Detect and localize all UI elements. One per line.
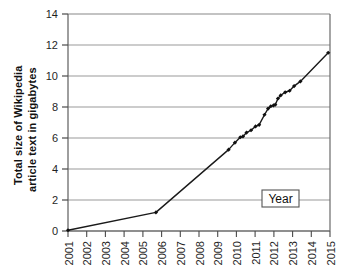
xtick-label-2011: 2011 bbox=[250, 241, 262, 265]
x-axis-ticks bbox=[68, 231, 330, 237]
xtick-label-2012: 2012 bbox=[268, 241, 280, 265]
y-axis-ticks bbox=[62, 14, 68, 231]
xtick-label-2001: 2001 bbox=[63, 241, 75, 265]
line-chart: 14 12 10 8 6 4 2 0 bbox=[0, 0, 341, 278]
xtick-label-2003: 2003 bbox=[100, 241, 112, 265]
ytick-label-8: 8 bbox=[52, 101, 58, 113]
xtick-label-2010: 2010 bbox=[231, 241, 243, 265]
ytick-label-4: 4 bbox=[52, 163, 58, 175]
xtick-label-2009: 2009 bbox=[212, 241, 224, 265]
x-axis-tick-labels: 2001 2002 2003 2004 2005 2006 2007 2008 … bbox=[63, 241, 337, 265]
y-axis-title-line1: Total size of Wikipedia bbox=[12, 65, 24, 185]
xtick-label-2005: 2005 bbox=[137, 241, 149, 265]
y-axis-title: Total size of Wikipedia article text in … bbox=[12, 65, 38, 192]
xtick-label-2006: 2006 bbox=[156, 241, 168, 265]
y-axis-tick-labels: 14 12 10 8 6 4 2 0 bbox=[46, 8, 58, 237]
y-axis-title-line2: article text in gigabytes bbox=[26, 67, 38, 192]
xtick-label-2002: 2002 bbox=[81, 241, 93, 265]
xtick-label-2013: 2013 bbox=[287, 241, 299, 265]
chart-container: 14 12 10 8 6 4 2 0 bbox=[0, 0, 341, 278]
ytick-label-0: 0 bbox=[52, 225, 58, 237]
xtick-label-2007: 2007 bbox=[175, 241, 187, 265]
xtick-label-2015: 2015 bbox=[325, 241, 337, 265]
ytick-label-2: 2 bbox=[52, 194, 58, 206]
ytick-label-10: 10 bbox=[46, 70, 58, 82]
ytick-label-12: 12 bbox=[46, 39, 58, 51]
x-axis-title-label: Year bbox=[268, 192, 292, 206]
ytick-label-6: 6 bbox=[52, 132, 58, 144]
ytick-label-14: 14 bbox=[46, 8, 58, 20]
xtick-label-2004: 2004 bbox=[119, 241, 131, 265]
xtick-label-2014: 2014 bbox=[306, 241, 318, 265]
xtick-label-2008: 2008 bbox=[194, 241, 206, 265]
x-axis-title-box: Year bbox=[262, 190, 299, 207]
